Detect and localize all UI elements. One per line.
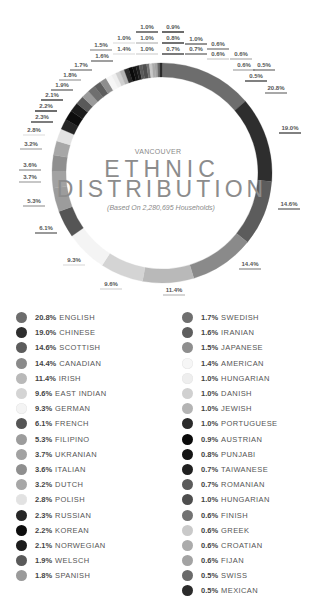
color-swatch-icon (16, 434, 27, 445)
legend-item: 1.4%AMERICAN (182, 356, 277, 371)
chart-city: VANCOUVER (0, 148, 316, 155)
slice-label: 0.6% (234, 51, 248, 57)
legend-item: 0.7%ROMANIAN (182, 477, 277, 492)
color-swatch-icon (16, 510, 27, 521)
color-swatch-icon (16, 570, 27, 581)
color-swatch-icon (182, 555, 193, 566)
slice-label: 1.0% (189, 36, 203, 42)
slice-label: 0.6% (237, 62, 251, 68)
color-swatch-icon (16, 555, 27, 566)
legend-item: 3.2%DUTCH (16, 477, 106, 492)
color-swatch-icon (16, 327, 27, 338)
color-swatch-icon (16, 494, 27, 505)
legend-item: 1.9%WELSCH (16, 553, 106, 568)
slice-label: 1.9% (55, 82, 69, 88)
legend-item: 0.6%CROATIAN (182, 538, 277, 553)
color-swatch-icon (182, 434, 193, 445)
color-swatch-icon (182, 540, 193, 551)
legend-item: 6.1%FRENCH (16, 416, 106, 431)
slice-label: 2.2% (39, 103, 53, 109)
slice-label: 0.5% (249, 73, 263, 79)
color-swatch-icon (16, 373, 27, 384)
slice-english (162, 63, 245, 110)
slice-label: 1.0% (140, 35, 154, 41)
slice-label: 0.6% (211, 51, 225, 57)
legend-item: 1.6%IRANIAN (182, 325, 277, 340)
legend-item: 14.4%CANADIAN (16, 356, 106, 371)
color-swatch-icon (182, 585, 193, 596)
legend-item: 0.5%MEXICAN (182, 583, 277, 598)
color-swatch-icon (182, 388, 193, 399)
color-swatch-icon (16, 449, 27, 460)
legend-right-column: 1.7%SWEDISH 1.6%IRANIAN 1.5%JAPANESE 1.4… (182, 310, 277, 599)
color-swatch-icon (182, 494, 193, 505)
color-swatch-icon (182, 418, 193, 429)
color-swatch-icon (182, 373, 193, 384)
legend-item: 1.5%JAPANESE (182, 340, 277, 355)
legend-item: 0.6%FIJAN (182, 553, 277, 568)
slice-east-indian (102, 254, 145, 282)
legend-item: 5.3%FILIPINO (16, 432, 106, 447)
slice-label: 2.3% (35, 114, 49, 120)
legend-item: 1.0%PORTUGUESE (182, 416, 277, 431)
color-swatch-icon (182, 327, 193, 338)
legend-item: 11.4%IRISH (16, 371, 106, 386)
color-swatch-icon (182, 403, 193, 414)
legend-item: 0.6%FINISH (182, 507, 277, 522)
slice-label: 1.5% (94, 42, 108, 48)
slice-label: 3.2% (24, 141, 38, 147)
slice-label: 14.4% (241, 261, 259, 267)
slice-label: 1.4% (117, 46, 131, 52)
legend-item: 0.9%AUSTRIAN (182, 432, 277, 447)
slice-label: 19.0% (281, 125, 299, 131)
legend-item: 1.0%JEWISH (182, 401, 277, 416)
legend-item: 2.3%RUSSIAN (16, 507, 106, 522)
color-swatch-icon (16, 479, 27, 490)
slice-label: 20.8% (267, 85, 285, 91)
color-swatch-icon (16, 388, 27, 399)
color-swatch-icon (16, 403, 27, 414)
chart-subtitle: (Based On 2,280,695 Households) (0, 204, 316, 211)
legend-item: 2.2%KOREAN (16, 523, 106, 538)
slice-label: 1.0% (117, 35, 131, 41)
color-swatch-icon (16, 312, 27, 323)
slice-label: 9.6% (104, 281, 118, 287)
slice-label: 1.8% (63, 72, 77, 78)
legend-item: 3.7%UKRANIAN (16, 447, 106, 462)
color-swatch-icon (182, 464, 193, 475)
slice-label: 0.9% (166, 24, 180, 30)
legend-item: 1.0%HUNGARIAN (182, 492, 277, 507)
legend-item: 0.7%TAIWANESE (182, 462, 277, 477)
color-swatch-icon (16, 358, 27, 369)
slice-label: 0.7% (189, 46, 203, 52)
color-swatch-icon (182, 570, 193, 581)
slice-mexican (160, 63, 162, 77)
slice-label: 0.6% (211, 41, 225, 47)
legend-item: 20.8%ENGLISH (16, 310, 106, 325)
legend-item: 1.7%SWEDISH (182, 310, 277, 325)
slice-label: 1.7% (74, 62, 88, 68)
slice-label: 0.5% (257, 62, 271, 68)
color-swatch-icon (16, 418, 27, 429)
color-swatch-icon (16, 342, 27, 353)
legend-item: 14.6%SCOTTISH (16, 340, 106, 355)
slice-label: 9.3% (67, 257, 81, 263)
slice-irish (143, 265, 194, 283)
color-swatch-icon (182, 312, 193, 323)
color-swatch-icon (182, 449, 193, 460)
legend-item: 1.0%DANISH (182, 386, 277, 401)
legend-item: 3.6%ITALIAN (16, 462, 106, 477)
slice-label: 2.8% (27, 127, 41, 133)
legend-item: 19.0%CHINESE (16, 325, 106, 340)
legend-item: 0.8%PUNJABI (182, 447, 277, 462)
legend-item: 1.8%SPANISH (16, 568, 106, 583)
legend-item: 9.3%GERMAN (16, 401, 106, 416)
color-swatch-icon (16, 464, 27, 475)
slice-label: 1.0% (140, 46, 154, 52)
chart-title-line2: DISTRIBUTION (0, 176, 316, 203)
color-swatch-icon (182, 479, 193, 490)
legend-item: 0.6%GREEK (182, 523, 277, 538)
slice-label: 6.1% (39, 225, 53, 231)
slice-canadian (190, 233, 248, 278)
legend-item: 2.1%NORWEGIAN (16, 538, 106, 553)
